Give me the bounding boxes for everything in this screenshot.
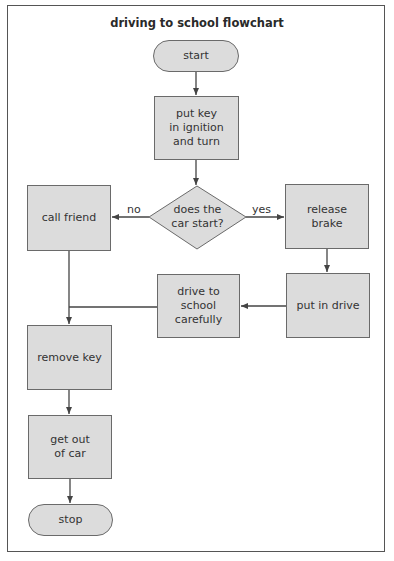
get-out-node: get out of car: [28, 415, 112, 479]
call-friend-node: call friend: [27, 185, 111, 251]
put-in-drive-node: put in drive: [286, 273, 370, 338]
decision-node-label: does the car start?: [149, 203, 246, 231]
edge-label-yes: yes: [252, 203, 271, 216]
drive-to-school-node: drive to school carefully: [157, 274, 240, 338]
release-brake-node: release brake: [285, 184, 369, 249]
start-node: start: [153, 40, 239, 72]
put-key-node: put key in ignition and turn: [154, 96, 239, 160]
stop-node: stop: [28, 504, 113, 536]
remove-key-node: remove key: [27, 325, 112, 390]
edge-label-no: no: [127, 203, 141, 216]
